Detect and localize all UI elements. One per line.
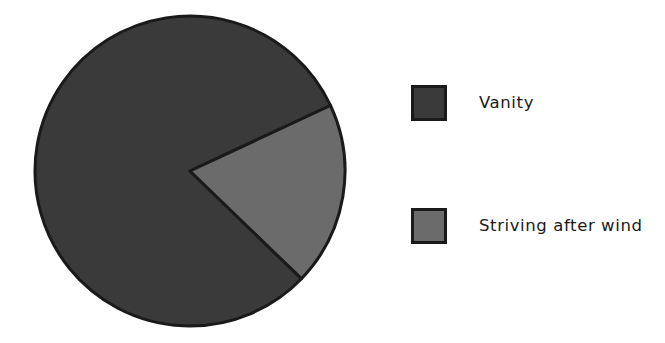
legend-swatch-striving-after-wind xyxy=(411,208,447,244)
pie-chart-figure: Vanity Striving after wind xyxy=(0,0,665,343)
legend-swatch-vanity xyxy=(411,85,447,121)
legend-item-striving-after-wind[interactable]: Striving after wind xyxy=(411,208,651,244)
legend-label-vanity: Vanity xyxy=(479,95,534,112)
legend-item-vanity[interactable]: Vanity xyxy=(411,85,651,121)
pie-slices-group xyxy=(35,16,345,326)
legend-label-striving-after-wind: Striving after wind xyxy=(479,218,643,235)
chart-legend: Vanity Striving after wind xyxy=(411,85,651,244)
